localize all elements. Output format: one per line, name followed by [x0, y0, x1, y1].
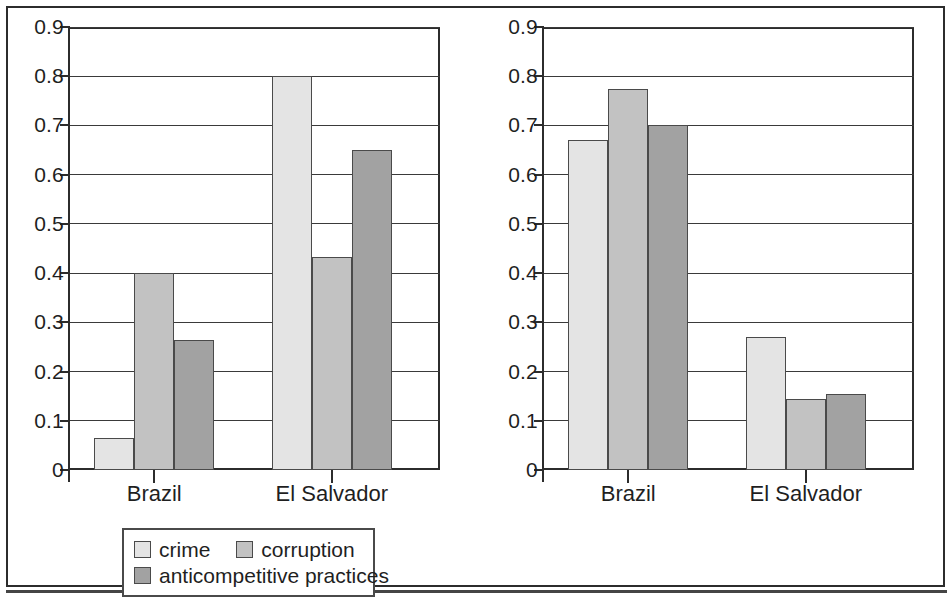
bar-el-salvador-crime [272, 76, 312, 470]
figure-root: 00.10.20.30.40.50.60.70.80.9 BrazilEl Sa… [0, 0, 951, 605]
y-axis-tick-label: 0.3 [10, 311, 64, 332]
y-axis-tick-label: 0.8 [10, 65, 64, 86]
bar-brazil-anticompetitive-practices [174, 340, 214, 470]
right-chart-panel: 00.10.20.30.40.50.60.70.80.9 BrazilEl Sa… [478, 0, 948, 605]
bar-brazil-tax-rates [608, 89, 648, 470]
gridline [70, 76, 440, 77]
gridline [544, 125, 914, 126]
plot-border-right [438, 27, 440, 470]
bar-el-salvador-tax-rates [786, 399, 826, 470]
gridline [544, 27, 914, 28]
right-chart-plot-area [544, 27, 914, 470]
gridline [70, 125, 440, 126]
y-axis-tick-label: 0.1 [484, 410, 538, 431]
legend-swatch-icon [134, 567, 151, 584]
legend-swatch-icon [236, 541, 253, 558]
bar-brazil-crime [94, 438, 134, 470]
bar-brazil-corruption [134, 273, 174, 470]
y-axis-tick-label: 0.6 [484, 164, 538, 185]
x-axis-label-el-salvador: El Salvador [222, 481, 442, 507]
legend-swatch-icon [134, 541, 151, 558]
y-axis-tick-label: 0.2 [10, 361, 64, 382]
y-axis-tick-label: 0.9 [484, 16, 538, 37]
y-axis-tick-label: 0.8 [484, 65, 538, 86]
charts-container: 00.10.20.30.40.50.60.70.80.9 BrazilEl Sa… [0, 0, 951, 605]
legend-entry: anticompetitive practices [134, 564, 389, 587]
y-axis-tick-label: 0.5 [484, 213, 538, 234]
bar-brazil-macroeconomic-stability [568, 140, 608, 470]
legend-entry: crime [134, 538, 210, 561]
legend-label: corruption [261, 538, 354, 561]
bar-el-salvador-cost-of-finance [826, 394, 866, 470]
y-axis-tick-label: 0.4 [10, 262, 64, 283]
y-axis-tick-label: 0.2 [484, 361, 538, 382]
gridline [544, 76, 914, 77]
bar-el-salvador-corruption [312, 257, 352, 470]
legend-row: crime corruption [134, 536, 363, 562]
legend-entry: corruption [236, 538, 354, 561]
y-axis-tick-label: 0.9 [10, 16, 64, 37]
y-axis-tick-label: 0.4 [484, 262, 538, 283]
y-axis-tick-label: 0 [10, 459, 64, 480]
plot-border-right [912, 27, 914, 470]
y-axis-tick-label: 0.3 [484, 311, 538, 332]
y-axis-tick-label: 0.7 [10, 114, 64, 135]
legend-label: anticompetitive practices [159, 564, 389, 587]
y-axis-tick-label: 0.7 [484, 114, 538, 135]
bar-el-salvador-anticompetitive-practices [352, 150, 392, 470]
bar-brazil-cost-of-finance [648, 125, 688, 470]
y-axis-tick-label: 0.5 [10, 213, 64, 234]
left-chart-plot-area [70, 27, 440, 470]
bar-el-salvador-macroeconomic-stability [746, 337, 786, 470]
gridline [70, 27, 440, 28]
y-axis-tick-label: 0.6 [10, 164, 64, 185]
x-axis-label-el-salvador: El Salvador [696, 481, 916, 507]
legend-label: crime [159, 538, 210, 561]
y-axis-tick-label: 0 [484, 459, 538, 480]
y-axis-tick-label: 0.1 [10, 410, 64, 431]
legend-row: anticompetitive practices [134, 562, 363, 588]
left-chart-legend: crime corruption anticompetitive practic… [122, 528, 375, 597]
left-chart-panel: 00.10.20.30.40.50.60.70.80.9 BrazilEl Sa… [4, 0, 474, 605]
